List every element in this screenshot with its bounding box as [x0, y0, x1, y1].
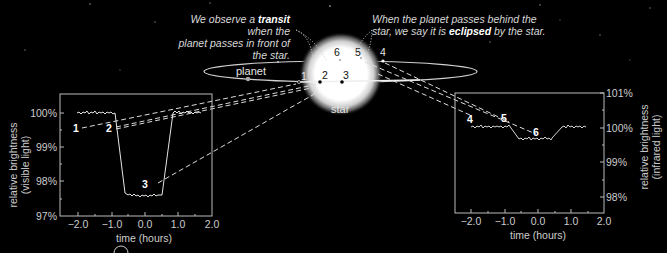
chart-label-5: 5: [501, 112, 507, 124]
x-tick: 1.0: [564, 215, 579, 227]
chart-label-1: 1: [73, 122, 79, 134]
x-tick: −1.0: [495, 215, 516, 227]
y-axis-label-line2: (visible light): [19, 136, 31, 194]
transit-eclipse-diagram: planet star 1 2 3 6 5 4: [0, 0, 667, 253]
star-label: star: [331, 103, 350, 115]
y-tick-101: 101%: [606, 87, 633, 99]
orbit-marker: [277, 61, 279, 63]
light-curve-infrared: [471, 125, 586, 140]
x-tick: −2.0: [68, 218, 89, 230]
y-axis-label-line2: (infrared light): [650, 115, 662, 180]
x-axis-label: time (hours): [116, 232, 172, 244]
x-tick: 0.0: [531, 215, 546, 227]
y-tick-99: 99%: [36, 141, 57, 153]
orbit-label-4: 4: [380, 46, 386, 58]
chart-label-2: 2: [106, 122, 112, 134]
y-tick-97: 97%: [36, 210, 57, 222]
x-tick: 0.0: [138, 218, 153, 230]
eclipse-caption: When the planet passes behind the star, …: [372, 13, 572, 37]
chart-frame: [455, 93, 604, 213]
y-tick-100: 100%: [606, 122, 633, 134]
light-curve-visible: [77, 111, 201, 197]
point-4-dot: [381, 59, 384, 62]
y-axis-label-line1: relative brightness: [7, 122, 19, 207]
orbit-label-6: 6: [334, 46, 340, 58]
x-tick: 2.0: [205, 218, 220, 230]
transit-caption: We observe a transit when the planet pas…: [170, 13, 290, 61]
y-tick-98: 98%: [36, 175, 57, 187]
y-axis-label-line1: relative brightness: [638, 104, 650, 189]
orbit-label-3: 3: [343, 69, 349, 81]
y-tick-98: 98%: [606, 191, 627, 203]
infrared-light-chart: 101% 100% 99% 98% −2.0 −1.0 0.0 1.0 2.0 …: [455, 87, 662, 241]
transit-term: transit: [258, 13, 290, 25]
x-axis-label: time (hours): [510, 229, 566, 241]
x-tick: 2.0: [597, 215, 612, 227]
orbit-label-1: 1: [301, 70, 307, 82]
eclipsed-term: eclipsed: [449, 25, 491, 37]
x-tick: 1.0: [171, 218, 186, 230]
y-tick-100: 100%: [30, 107, 57, 119]
chart-label-3: 3: [142, 178, 148, 190]
chart-label-6: 6: [533, 126, 539, 138]
planet-dot: [246, 77, 250, 81]
planet-label: planet: [236, 65, 266, 77]
x-tick: −1.0: [102, 218, 123, 230]
chart-label-4: 4: [467, 113, 473, 125]
visible-light-chart: 100% 99% 98% 97% −2.0 −1.0 0.0 1.0 2.0 t…: [7, 94, 219, 244]
x-tick: −2.0: [461, 215, 482, 227]
panel-marker-icon: [114, 246, 128, 253]
point-6-dot: [339, 59, 341, 61]
y-tick-99: 99%: [606, 156, 627, 168]
orbit-label-2: 2: [322, 69, 328, 81]
